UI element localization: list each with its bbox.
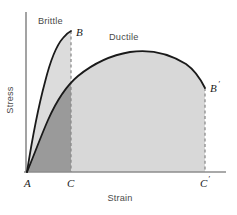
point-label-C: C — [67, 177, 75, 189]
point-label-C-prime: C ′ — [200, 175, 210, 189]
stress-strain-figure: Strain Stress Brittle Ductile B A C B ′ … — [0, 0, 237, 215]
x-axis-label: Strain — [107, 193, 132, 203]
point-label-C-prime-base: C — [200, 177, 208, 189]
y-axis-label: Stress — [5, 86, 15, 113]
point-label-B-prime: B ′ — [210, 80, 220, 94]
point-label-B-prime-mark: ′ — [218, 80, 220, 89]
stress-strain-chart: Strain Stress Brittle Ductile B A C B ′ … — [0, 0, 237, 215]
point-label-B-prime-base: B — [210, 82, 217, 94]
point-label-A: A — [23, 177, 31, 189]
ductile-label: Ductile — [109, 32, 138, 42]
point-label-B: B — [76, 26, 83, 38]
point-label-C-prime-mark: ′ — [208, 175, 210, 184]
brittle-label: Brittle — [38, 16, 63, 26]
